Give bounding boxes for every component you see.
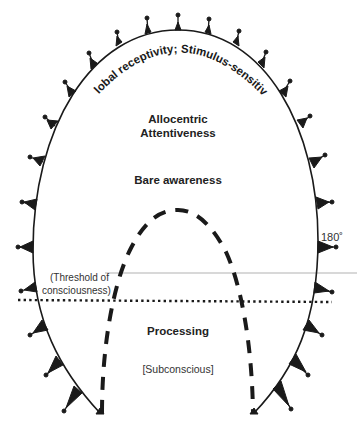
pin-icon: [289, 354, 310, 377]
pin-icon: [303, 320, 324, 337]
pin-icon: [309, 153, 327, 168]
arc-label: Global receptivity; Stimulus-sensitive: [0, 0, 270, 98]
label-allocentric: Allocentric: [128, 112, 228, 126]
pin-icon: [63, 80, 76, 97]
label-processing: Processing: [128, 324, 228, 338]
pin-icon: [62, 386, 82, 413]
pin-icon: [16, 241, 33, 253]
pin-icon: [28, 155, 45, 166]
threshold-dotted-line: [18, 300, 332, 302]
pin-icon: [20, 199, 37, 210]
pin-icon: [19, 282, 37, 293]
pin-icon: [115, 30, 122, 46]
label-angle-180: 180˚: [321, 231, 343, 243]
label-bare-awareness: Bare awareness: [118, 173, 238, 187]
outer-boundary-arc: [33, 30, 318, 413]
pin-icon: [314, 282, 334, 294]
pin-icon: [145, 16, 151, 34]
pin-icon: [233, 29, 241, 46]
label-threshold-line2: consciousness): [42, 284, 111, 297]
label-attentiveness: Attentiveness: [128, 126, 228, 140]
pin-icon: [297, 114, 312, 128]
inner-dashed-boundary: [102, 210, 253, 413]
pin-icon: [175, 13, 181, 30]
pin-icon: [273, 381, 293, 411]
pin-icon: [316, 197, 334, 209]
pin-icon: [205, 17, 211, 34]
label-subconscious: [Subconscious]: [128, 363, 228, 375]
label-threshold-line1: (Threshold of: [42, 271, 111, 284]
boundary-pin-ticks: [16, 13, 338, 414]
